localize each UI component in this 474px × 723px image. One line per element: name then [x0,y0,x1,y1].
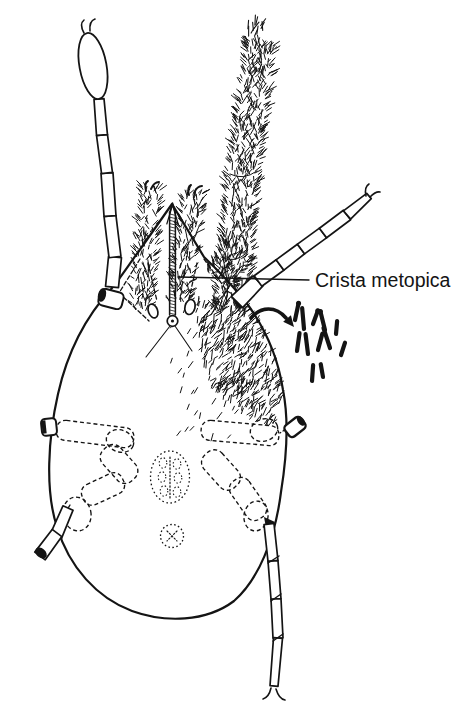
mite-dorsal-illustration: Crista metopica [0,0,474,723]
figure-canvas: Crista metopica [0,0,474,723]
crista-metopica-label: Crista metopica [315,269,451,291]
